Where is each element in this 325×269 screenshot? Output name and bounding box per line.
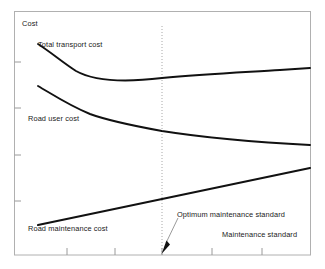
annotation-label-optimum-maintenance-standard: Optimum maintenance standard (177, 211, 285, 218)
x-axis-label: Maintenance standard (222, 231, 297, 238)
series-label-total-transport-cost: Total transport cost (38, 41, 102, 48)
series-label-road-maintenance-cost: Road maintenance cost (28, 225, 108, 232)
chart-figure: Cost Maintenance standard Total transpor… (0, 0, 325, 269)
y-axis-label: Cost (22, 20, 38, 27)
series-label-road-user-cost: Road user cost (28, 115, 79, 122)
